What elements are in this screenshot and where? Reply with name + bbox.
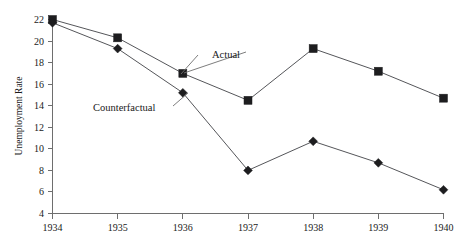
x-tick-label: 1938 — [303, 222, 323, 233]
data-point-actual-1938 — [309, 45, 317, 53]
data-point-counterfactual-1940 — [439, 185, 448, 194]
data-point-actual-1936 — [179, 69, 187, 77]
y-tick-label: 20 — [34, 36, 44, 47]
y-axis-tick-labels: 46810121416182022 — [34, 14, 44, 219]
x-tick-label: 1936 — [173, 222, 193, 233]
x-tick-label: 1937 — [238, 222, 258, 233]
data-point-actual-1939 — [374, 67, 382, 75]
annotation-leader-lines — [173, 52, 246, 106]
x-axis-tick-labels: 1934193519361937193819391940 — [43, 222, 454, 233]
x-axis-ticks — [53, 214, 444, 219]
x-tick-label: 1940 — [434, 222, 454, 233]
x-tick-label: 1939 — [368, 222, 388, 233]
actual-series-label: Actual — [212, 49, 240, 60]
x-tick-label: 1935 — [108, 222, 128, 233]
chart-plot-area: 46810121416182022 1934193519361937193819… — [0, 0, 474, 248]
y-tick-label: 10 — [34, 143, 44, 154]
counterfactual-series-label: Counterfactual — [93, 102, 155, 113]
y-axis-ticks — [48, 20, 53, 214]
y-axis-title: Unemployment Rate — [14, 77, 24, 156]
data-point-actual-1935 — [114, 34, 122, 42]
data-point-counterfactual-1935 — [113, 44, 122, 53]
unemployment-rate-chart: 46810121416182022 1934193519361937193819… — [0, 0, 474, 248]
y-tick-label: 4 — [39, 208, 44, 219]
y-tick-label: 12 — [34, 122, 44, 133]
data-point-actual-1937 — [244, 96, 252, 104]
y-tick-label: 6 — [39, 186, 44, 197]
data-point-counterfactual-1939 — [374, 158, 383, 167]
x-tick-label: 1934 — [43, 222, 63, 233]
y-tick-label: 8 — [39, 165, 44, 176]
data-point-actual-1940 — [440, 94, 448, 102]
data-point-counterfactual-1938 — [309, 137, 318, 146]
series-line-actual — [53, 20, 444, 101]
y-tick-label: 14 — [34, 100, 44, 111]
y-tick-label: 16 — [34, 79, 44, 90]
y-tick-label: 18 — [34, 57, 44, 68]
y-tick-label: 22 — [34, 14, 44, 25]
